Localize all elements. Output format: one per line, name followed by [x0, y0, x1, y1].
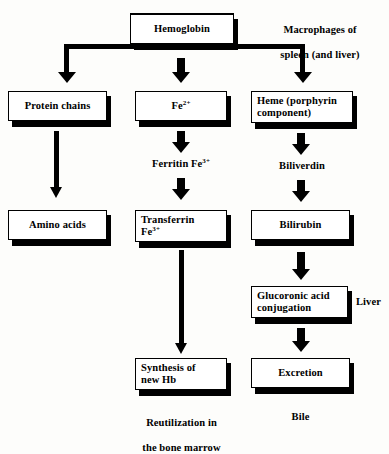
protein-to-amino-shaft [54, 131, 59, 189]
reutilization-line-2: the bone marrow [142, 442, 220, 453]
heme-label-line-2: component) [257, 107, 311, 118]
protein-chains-box[interactable]: Protein chains [8, 91, 107, 121]
synthesis-box[interactable]: Synthesis of new Hb [135, 358, 227, 390]
iron-box[interactable]: Fe2+ [135, 91, 227, 121]
biliverdin-label: Biliverdin [251, 160, 353, 173]
ferritin-label: Ferritin Fe3+ [131, 158, 231, 171]
hemoglobin-left-branch-vertical [64, 44, 69, 72]
amino-acids-arrowhead [50, 187, 62, 201]
reutilization-line-1: Reutilization in [146, 417, 217, 428]
hemoglobin-left-branch-horizontal [64, 44, 134, 49]
liver-annotation: Liver [356, 296, 381, 309]
amino-acids-box[interactable]: Amino acids [8, 210, 107, 240]
iron-arrowhead [172, 72, 190, 86]
iron-charge-superscript: 2+ [183, 98, 191, 106]
excretion-box[interactable]: Excretion [251, 358, 350, 388]
synthesis-arrowhead [175, 343, 187, 357]
ferritin-charge-superscript: 3+ [202, 157, 210, 165]
glucoronic-acid-box[interactable]: Glucoronic acid conjugation [251, 286, 348, 318]
protein-chains-label: Protein chains [22, 100, 94, 112]
hemoglobin-label: Hemoglobin [151, 23, 213, 35]
heme-arrowhead [294, 72, 312, 86]
transferrin-charge-superscript: 3+ [152, 225, 160, 233]
synthesis-label: Synthesis of new Hb [136, 362, 199, 387]
transferrin-iron-base: Fe [141, 226, 152, 237]
macrophages-line-1: Macrophages of [283, 24, 356, 35]
bilirubin-label: Bilirubin [277, 219, 325, 231]
ferritin-arrowhead [172, 142, 190, 156]
glucoronic-label-line-2: conjugation [257, 302, 311, 313]
synthesis-label-line-1: Synthesis of [141, 362, 196, 373]
transferrin-label-line-2: Fe3+ [141, 226, 160, 237]
heme-label-line-1: Heme (porphyrin [257, 95, 337, 106]
transferrin-label: Transferrin Fe3+ [136, 214, 197, 239]
heme-label: Heme (porphyrin component) [252, 95, 340, 120]
synthesis-label-line-2: new Hb [141, 374, 176, 385]
glucoronic-acid-label: Glucoronic acid conjugation [252, 290, 333, 315]
glucoronic-arrowhead [292, 269, 310, 283]
amino-acids-label: Amino acids [26, 219, 89, 231]
excretion-label: Excretion [275, 367, 325, 379]
biliverdin-arrowhead [292, 144, 310, 158]
transferrin-box[interactable]: Transferrin Fe3+ [135, 210, 227, 242]
iron-label-base: Fe [172, 100, 183, 111]
hemoglobin-box[interactable]: Hemoglobin [130, 14, 234, 44]
protein-chains-arrowhead [58, 72, 76, 86]
excretion-arrowhead [292, 341, 310, 355]
transferrin-label-line-1: Transferrin [141, 214, 194, 225]
transferrin-to-synthesis-shaft [179, 250, 184, 345]
transferrin-arrowhead [172, 189, 190, 203]
bile-caption: Bile [251, 411, 350, 424]
iron-label: Fe2+ [169, 100, 194, 112]
ferritin-label-base: Ferritin Fe [152, 158, 202, 169]
heme-box[interactable]: Heme (porphyrin component) [251, 91, 353, 123]
bilirubin-box[interactable]: Bilirubin [251, 210, 350, 240]
glucoronic-label-line-1: Glucoronic acid [257, 290, 330, 301]
macrophages-annotation: Macrophages of spleen (and liver) [254, 11, 386, 61]
bilirubin-arrowhead [292, 191, 310, 205]
macrophages-line-2: spleen (and liver) [280, 49, 359, 60]
reutilization-caption: Reutilization in the bone marrow [129, 404, 234, 454]
